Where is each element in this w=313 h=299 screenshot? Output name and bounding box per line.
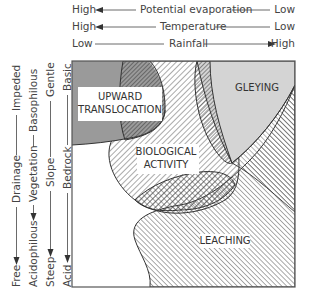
svg-text:Temperature: Temperature	[159, 20, 227, 32]
label-gleying: GLEYING	[235, 82, 279, 93]
arrow-down-icon	[31, 213, 37, 221]
soil-process-diagram: High Potential evaporation Low High Temp…	[0, 0, 313, 299]
label-translocation: TRANSLOCATION	[77, 104, 162, 115]
arrow-down-icon	[14, 257, 20, 265]
arrow-left-icon	[95, 24, 103, 30]
svg-text:High: High	[72, 20, 96, 32]
side-axis-bedrock: Acid Bedrock Basic	[61, 63, 73, 287]
svg-text:Basic: Basic	[61, 63, 73, 91]
svg-text:Gentle: Gentle	[44, 62, 56, 97]
svg-text:Low: Low	[274, 3, 295, 15]
svg-text:Drainage: Drainage	[10, 155, 22, 203]
label-activity: ACTIVITY	[144, 159, 190, 170]
side-axis-vegetation: Acidophilous Vegetation Basophilous	[27, 69, 39, 287]
side-axis-slope: Steep Slope Gentle	[44, 62, 56, 287]
top-axis-temperature: High Temperature Low	[72, 20, 295, 32]
svg-text:Impeded: Impeded	[10, 65, 22, 111]
svg-text:Free: Free	[10, 265, 22, 287]
svg-text:Steep: Steep	[44, 256, 56, 287]
arrow-down-icon	[65, 255, 71, 263]
arrow-left-icon	[95, 7, 103, 13]
svg-text:Low: Low	[72, 37, 93, 49]
svg-text:Potential evaporation: Potential evaporation	[140, 3, 252, 15]
svg-text:Vegetation: Vegetation	[27, 145, 39, 202]
svg-text:High: High	[72, 3, 96, 15]
svg-text:Basophilous: Basophilous	[27, 69, 39, 132]
svg-text:Bedrock: Bedrock	[61, 145, 73, 189]
svg-text:Low: Low	[274, 20, 295, 32]
label-leaching: LEACHING	[199, 235, 250, 246]
label-biological: BIOLOGICAL	[136, 146, 197, 157]
side-axis-drainage: Free Drainage Impeded	[10, 65, 22, 287]
svg-text:High: High	[271, 37, 295, 49]
arrow-down-icon	[48, 249, 54, 257]
svg-text:Acid: Acid	[61, 265, 73, 287]
label-upward: UPWARD	[98, 91, 142, 102]
top-axis-evaporation: High Potential evaporation Low	[72, 3, 295, 15]
top-axis-rainfall: Low Rainfall High	[72, 37, 295, 49]
svg-text:Slope: Slope	[44, 158, 56, 187]
svg-text:Rainfall: Rainfall	[169, 37, 208, 49]
svg-text:Acidophilous: Acidophilous	[27, 221, 39, 287]
